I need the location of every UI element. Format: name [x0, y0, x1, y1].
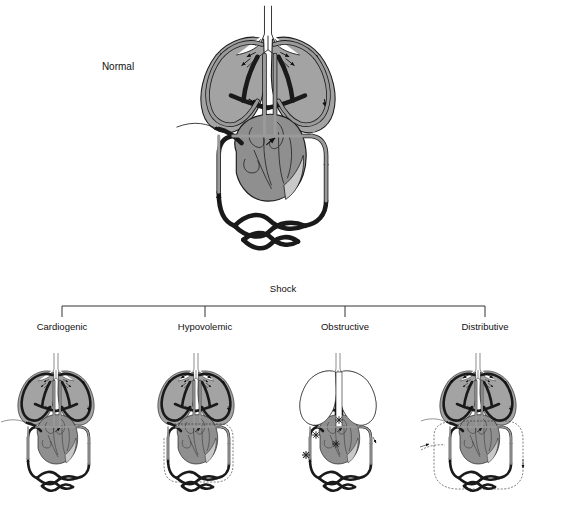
obstructive-circulation — [300, 353, 376, 491]
panel-obstructive: Obstructive — [300, 321, 376, 491]
panel-label-cardiogenic: Cardiogenic — [37, 321, 88, 332]
hypovolemic-circulation — [158, 353, 234, 491]
blockage-marker — [332, 440, 340, 448]
distributive-circulation — [420, 353, 523, 491]
panel-label-distributive: Distributive — [462, 321, 509, 332]
blockage-marker — [302, 451, 310, 459]
panel-distributive: Distributive — [420, 321, 523, 491]
shock-bracket-group: Shock — [62, 283, 485, 317]
shock-label: Shock — [270, 283, 297, 294]
panel-cardiogenic: Cardiogenic — [1, 321, 94, 491]
blockage-marker — [312, 431, 320, 439]
normal-circulation — [176, 6, 335, 249]
bracket — [62, 306, 485, 317]
normal-panel: Normal — [102, 6, 335, 249]
shock-circulation-diagram: .vband path, .lung, .heart-body, .heart-… — [0, 0, 563, 531]
cardiogenic-circulation — [1, 353, 94, 491]
panel-hypovolemic: Hypovolemic — [158, 321, 234, 491]
panel-label-obstructive: Obstructive — [321, 321, 369, 332]
circulation-symbol — [201, 6, 335, 249]
panel-label-hypovolemic: Hypovolemic — [178, 321, 233, 332]
normal-label: Normal — [102, 61, 134, 72]
blockage-marker — [335, 416, 343, 424]
